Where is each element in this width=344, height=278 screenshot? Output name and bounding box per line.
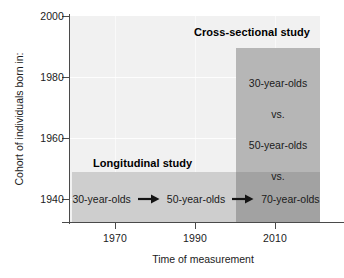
x-axis-title: Time of measurement <box>62 253 344 265</box>
longitudinal-item-30-year-olds: 30-year-olds <box>72 193 130 205</box>
x-tick-label-1990: 1990 <box>165 232 225 244</box>
cross-sectional-item-50-year-olds: 50-year-olds <box>236 139 320 151</box>
x-tick-1990 <box>195 222 196 229</box>
x-tick-label-1970: 1970 <box>85 232 145 244</box>
longitudinal-item-70-year-olds: 70-year-olds <box>261 193 319 205</box>
longitudinal-sequence: 30-year-olds 50-year-olds 70-year-olds <box>72 191 320 207</box>
cross-sectional-vs-1: vs. <box>236 108 320 120</box>
cross-sectional-vs-2: vs. <box>236 170 320 182</box>
x-axis-line <box>62 222 344 223</box>
x-tick-2010 <box>275 222 276 229</box>
y-axis-line <box>69 14 70 224</box>
right-arrow-icon <box>232 194 254 204</box>
cross-sectional-heading: Cross-sectional study <box>194 26 310 38</box>
longitudinal-item-50-year-olds: 50-year-olds <box>167 193 225 205</box>
x-tick-label-2010: 2010 <box>245 232 305 244</box>
y-axis-title: Cohort of individuals born in: <box>13 14 25 224</box>
cross-sectional-item-30-year-olds: 30-year-olds <box>236 77 320 89</box>
x-tick-1970 <box>115 222 116 229</box>
right-arrow-icon <box>138 194 160 204</box>
longitudinal-heading: Longitudinal study <box>93 157 192 169</box>
cohort-study-design-figure: 2000 1980 1960 1940 1970 1990 2010 Cross… <box>0 0 344 278</box>
